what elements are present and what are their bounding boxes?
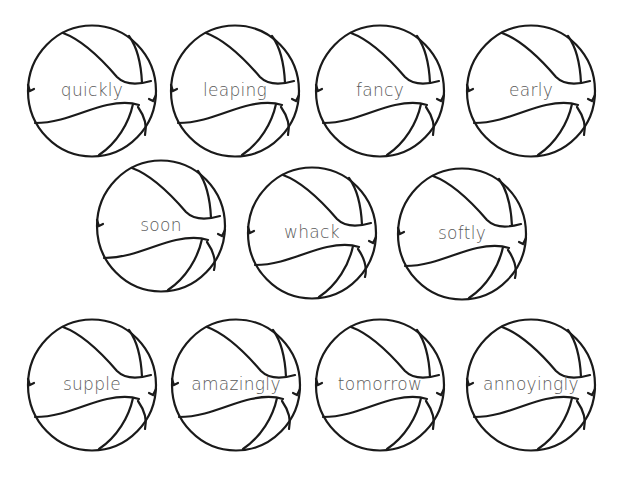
ball-supple: supple <box>25 317 159 453</box>
ball-quickly: quickly <box>25 23 159 159</box>
ball-word: soon <box>94 214 228 236</box>
ball-word: tomorrow <box>313 373 447 395</box>
ball-word: whack <box>245 221 379 243</box>
ball-whack: whack <box>245 165 379 301</box>
ball-fancy: fancy <box>313 23 447 159</box>
ball-tomorrow: tomorrow <box>313 317 447 453</box>
ball-early: early <box>464 23 598 159</box>
ball-word: softly <box>395 222 529 244</box>
ball-word: early <box>464 79 598 101</box>
ball-word: annoyingly <box>464 373 598 395</box>
ball-word: leaping <box>168 79 302 101</box>
ball-softly: softly <box>395 166 529 302</box>
ball-word: quickly <box>25 79 159 101</box>
ball-annoyingly: annoyingly <box>464 317 598 453</box>
ball-word: amazingly <box>169 373 303 395</box>
ball-amazingly: amazingly <box>169 317 303 453</box>
ball-soon: soon <box>94 158 228 294</box>
ball-word: supple <box>25 373 159 395</box>
ball-word: fancy <box>313 79 447 101</box>
ball-leaping: leaping <box>168 23 302 159</box>
